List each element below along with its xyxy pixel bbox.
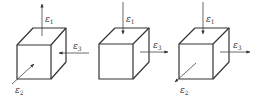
- cube-2-e3-label: ε3: [153, 40, 162, 51]
- cube-1-e3-label: ε3: [73, 41, 82, 52]
- cube-1-outline: [17, 28, 66, 79]
- cube-1-e2-arrow-icon: [12, 64, 34, 84]
- cube-1-e1-label: ε1: [45, 14, 54, 25]
- strain-cubes-diagram: ε1 ε3 ε2 ε1 ε3: [0, 0, 260, 98]
- cube-3: ε1 ε3 ε2: [175, 2, 250, 96]
- cube-1-e2-label: ε2: [15, 85, 24, 96]
- cube-1: ε1 ε3 ε2: [12, 4, 89, 96]
- cube-2-e1-label: ε1: [126, 14, 135, 25]
- cube-3-e2-label: ε2: [180, 85, 189, 96]
- cube-3-e3-label: ε3: [233, 40, 242, 51]
- cube-2: ε1 ε3: [99, 2, 168, 79]
- cube-3-e1-label: ε1: [206, 14, 215, 25]
- cube-2-outline: [99, 28, 149, 79]
